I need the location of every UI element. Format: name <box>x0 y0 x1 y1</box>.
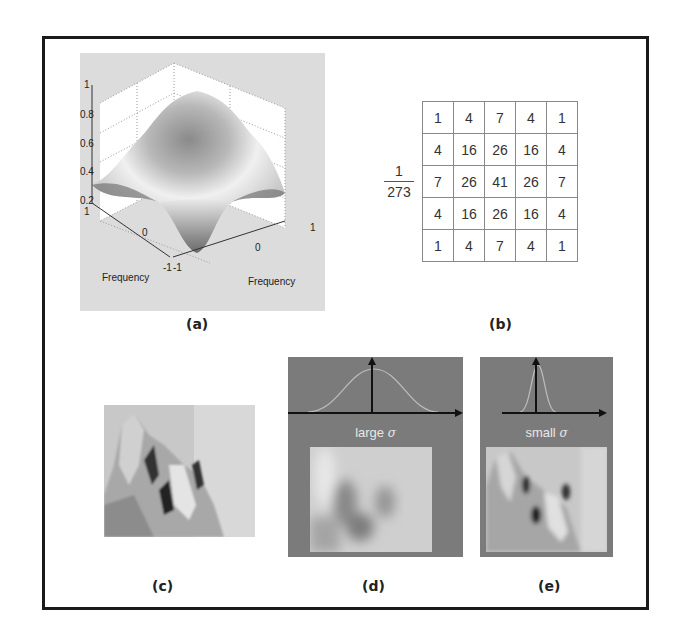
small-sigma-label: small σ <box>480 425 613 440</box>
panel-label-d: (d) <box>362 578 385 594</box>
kernel-cell: 7 <box>485 230 516 262</box>
original-rock-image <box>104 405 255 537</box>
kernel-row: 1 4 7 4 1 <box>423 102 578 134</box>
large-sigma-label: large σ <box>288 425 463 440</box>
kernel-cell: 4 <box>423 134 454 166</box>
x-tick: -1 <box>163 262 172 273</box>
surface-plot-svg: 1 0.8 0.6 0.4 0.2 1 0 -1 -1 0 1 Frequenc… <box>80 53 325 311</box>
kernel-cell: 16 <box>454 198 485 230</box>
panel-label-e: (e) <box>538 578 560 594</box>
sigma-text: large <box>355 425 384 440</box>
kernel-row: 7 26 41 26 7 <box>423 166 578 198</box>
large-sigma-panel: large σ <box>288 357 463 557</box>
kernel-row: 4 16 26 16 4 <box>423 198 578 230</box>
sigma-symbol: σ <box>388 426 396 440</box>
panel-label-b: (b) <box>489 316 512 332</box>
kernel-cell: 4 <box>423 198 454 230</box>
kernel-cell: 7 <box>423 166 454 198</box>
y-tick: 1 <box>310 222 316 233</box>
kernel-cell: 1 <box>423 102 454 134</box>
kernel-row: 1 4 7 4 1 <box>423 230 578 262</box>
kernel-cell: 16 <box>516 198 547 230</box>
blurred-image-large <box>310 447 432 552</box>
kernel-cell: 1 <box>547 230 578 262</box>
gaussian-kernel-table: 1 4 7 4 1 4 16 26 16 4 7 26 41 26 7 4 16… <box>422 101 578 262</box>
kernel-cell: 41 <box>485 166 516 198</box>
z-tick: 0.6 <box>80 138 94 149</box>
z-tick: 0.8 <box>80 109 94 120</box>
sigma-symbol: σ <box>559 426 567 440</box>
x-axis-label: Frequency <box>102 272 149 283</box>
kernel-cell: 4 <box>454 102 485 134</box>
fraction-denominator: 273 <box>384 182 414 200</box>
kernel-cell: 26 <box>485 198 516 230</box>
z-tick: 0.4 <box>80 166 94 177</box>
kernel-row: 4 16 26 16 4 <box>423 134 578 166</box>
kernel-cell: 1 <box>423 230 454 262</box>
x-tick: 0 <box>142 227 148 238</box>
panel-label-c: (c) <box>152 578 173 594</box>
kernel-cell: 7 <box>547 166 578 198</box>
kernel-cell: 4 <box>454 230 485 262</box>
normalization-fraction: 1 273 <box>384 163 414 200</box>
kernel-cell: 16 <box>454 134 485 166</box>
z-tick: 1 <box>84 79 90 90</box>
sigma-text: small <box>525 425 555 440</box>
kernel-cell: 4 <box>547 198 578 230</box>
kernel-cell: 1 <box>547 102 578 134</box>
kernel-cell: 16 <box>516 134 547 166</box>
blurred-image-small <box>486 447 607 552</box>
z-tick: 0.2 <box>80 195 94 206</box>
fraction-numerator: 1 <box>384 163 414 182</box>
kernel-cell: 4 <box>547 134 578 166</box>
surface-plot: 1 0.8 0.6 0.4 0.2 1 0 -1 -1 0 1 Frequenc… <box>80 53 325 311</box>
kernel-cell: 7 <box>485 102 516 134</box>
y-axis-label: Frequency <box>248 276 295 287</box>
kernel-cell: 26 <box>516 166 547 198</box>
y-tick: -1 <box>173 262 182 273</box>
panel-label-a: (a) <box>186 316 208 332</box>
x-tick: 1 <box>84 206 90 217</box>
kernel-cell: 26 <box>454 166 485 198</box>
kernel-cell: 4 <box>516 230 547 262</box>
kernel-cell: 4 <box>516 102 547 134</box>
y-tick: 0 <box>255 242 261 253</box>
kernel-cell: 26 <box>485 134 516 166</box>
small-sigma-panel: small σ <box>480 357 613 557</box>
